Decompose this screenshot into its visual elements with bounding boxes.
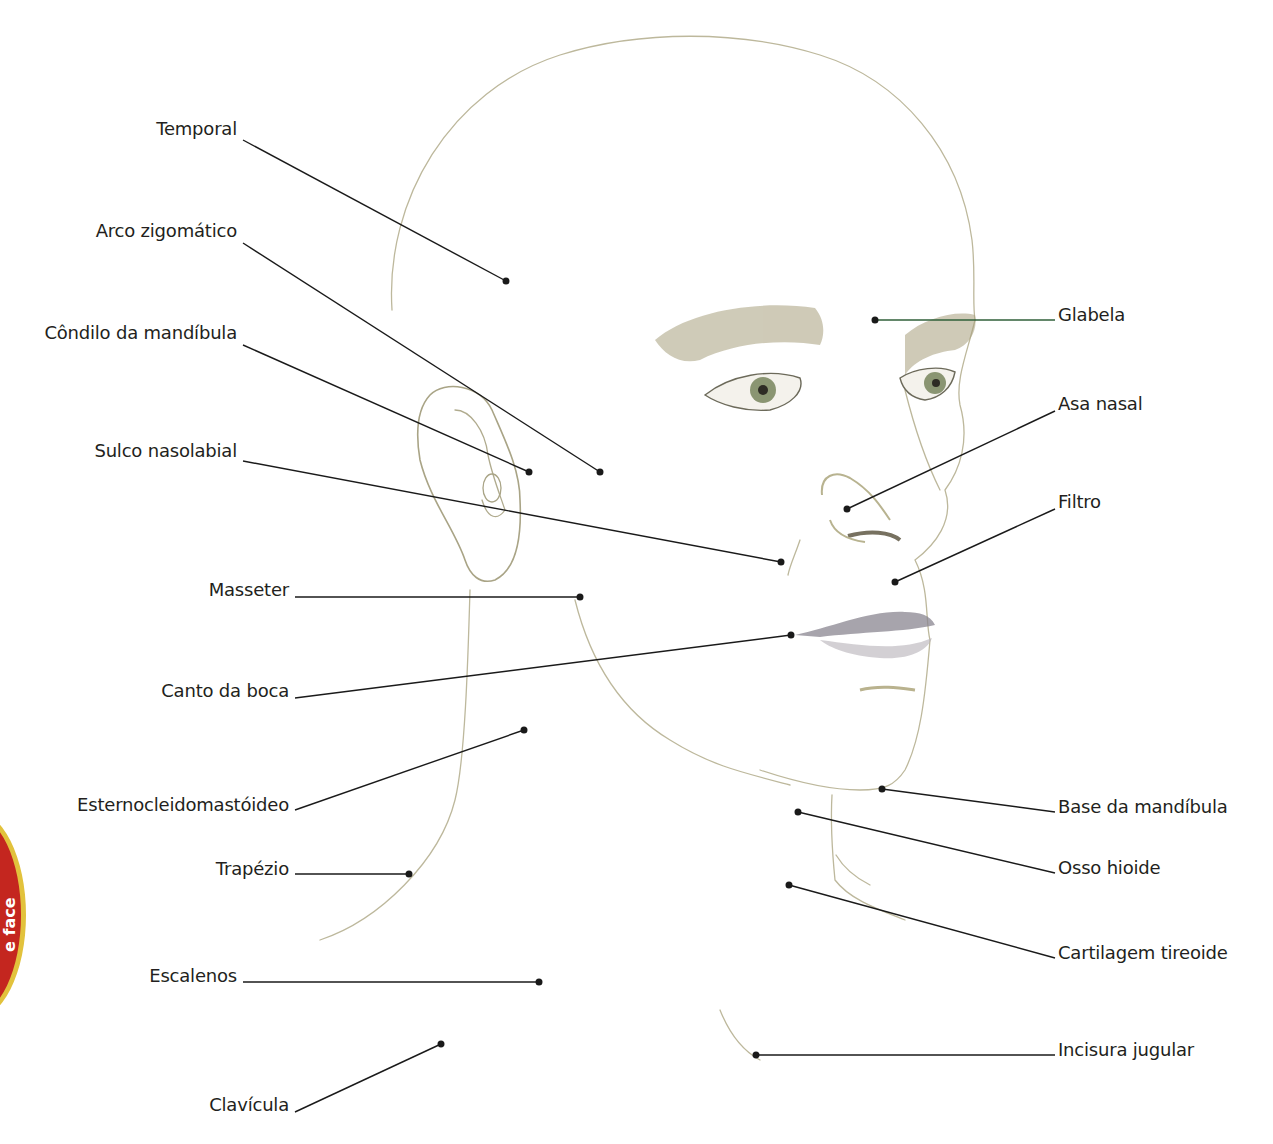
leader-dot-clavicula xyxy=(438,1041,444,1047)
nose-base xyxy=(830,520,865,542)
leader-line-osso-hioide xyxy=(798,812,1055,873)
head-outline xyxy=(391,36,975,320)
ear-inner xyxy=(455,410,505,517)
label-arco-zigomatico: Arco zigomático xyxy=(96,220,237,242)
leader-dot-condilo-da-mandibula xyxy=(526,469,532,475)
nostril xyxy=(848,533,900,540)
eyebrows xyxy=(655,305,976,375)
leader-dot-asa-nasal xyxy=(844,506,850,512)
nose-ala xyxy=(822,474,890,520)
label-asa-nasal: Asa nasal xyxy=(1058,393,1143,415)
leader-line-clavicula xyxy=(295,1044,441,1112)
leader-dot-canto-da-boca xyxy=(788,632,794,638)
label-trapezio: Trapézio xyxy=(216,858,289,880)
leader-line-canto-da-boca xyxy=(295,635,791,698)
neck-right xyxy=(831,795,905,920)
ear-concha xyxy=(483,474,501,502)
label-clavicula: Clavícula xyxy=(209,1094,289,1116)
label-canto-da-boca: Canto da boca xyxy=(161,680,289,702)
label-glabela: Glabela xyxy=(1058,304,1125,326)
leader-line-sulco-nasolabial xyxy=(243,461,781,562)
leader-line-condilo-da-mandibula xyxy=(243,345,529,472)
leader-dot-cartilagem-tireoide xyxy=(786,882,792,888)
lips xyxy=(795,612,935,690)
label-escalenos: Escalenos xyxy=(149,965,237,987)
label-sulco-nasolabial: Sulco nasolabial xyxy=(94,440,237,462)
leader-dot-trapezio xyxy=(406,871,412,877)
leader-dot-osso-hioide xyxy=(795,809,801,815)
lower-lip xyxy=(820,638,932,658)
leader-line-arco-zigomatico xyxy=(243,243,600,472)
label-esternocleidomastoideo: Esternocleidomastóideo xyxy=(77,794,289,816)
eyes xyxy=(705,368,955,410)
leader-dot-base-da-mandibula xyxy=(879,786,885,792)
leader-dot-filtro xyxy=(892,579,898,585)
leader-dot-temporal xyxy=(503,278,509,284)
label-filtro: Filtro xyxy=(1058,491,1101,513)
eye-right-pupil xyxy=(932,379,940,387)
leader-line-cartilagem-tireoide xyxy=(789,885,1055,958)
label-masseter: Masseter xyxy=(209,579,289,601)
chin-shadow xyxy=(860,687,915,690)
leader-dot-escalenos xyxy=(536,979,542,985)
nose-bridge xyxy=(905,390,940,490)
label-incisura-jugular: Incisura jugular xyxy=(1058,1039,1194,1061)
leader-line-esternocleidomastoideo xyxy=(295,730,524,810)
label-condilo-da-mandibula: Côndilo da mandíbula xyxy=(44,322,237,344)
anatomy-diagram: e face xyxy=(0,0,1273,1144)
label-osso-hioide: Osso hioide xyxy=(1058,857,1160,879)
leader-line-filtro xyxy=(895,509,1055,582)
leader-dot-sulco-nasolabial xyxy=(778,559,784,565)
throat-line xyxy=(836,855,870,885)
label-base-da-mandibula: Base da mandíbula xyxy=(1058,796,1228,818)
leader-line-temporal xyxy=(243,140,506,281)
leader-lines xyxy=(243,140,1055,1112)
label-cartilagem-tireoide: Cartilagem tireoide xyxy=(1058,942,1228,964)
leader-dot-incisura-jugular xyxy=(753,1052,759,1058)
neck-left xyxy=(320,590,470,940)
label-temporal: Temporal xyxy=(156,118,237,140)
nasolabial-fold xyxy=(788,540,800,575)
leader-line-base-da-mandibula xyxy=(882,789,1055,812)
jaw-line xyxy=(575,600,790,785)
leader-dot-arco-zigomatico xyxy=(597,469,603,475)
eyebrow-right xyxy=(905,314,976,375)
leader-line-asa-nasal xyxy=(847,411,1055,509)
leader-dot-glabela xyxy=(872,317,878,323)
upper-lip xyxy=(795,612,935,637)
leader-dot-esternocleidomastoideo xyxy=(521,727,527,733)
eye-left-pupil xyxy=(758,385,768,395)
eyebrow-left xyxy=(655,305,823,361)
leader-dot-masseter xyxy=(577,594,583,600)
nose xyxy=(822,474,900,542)
